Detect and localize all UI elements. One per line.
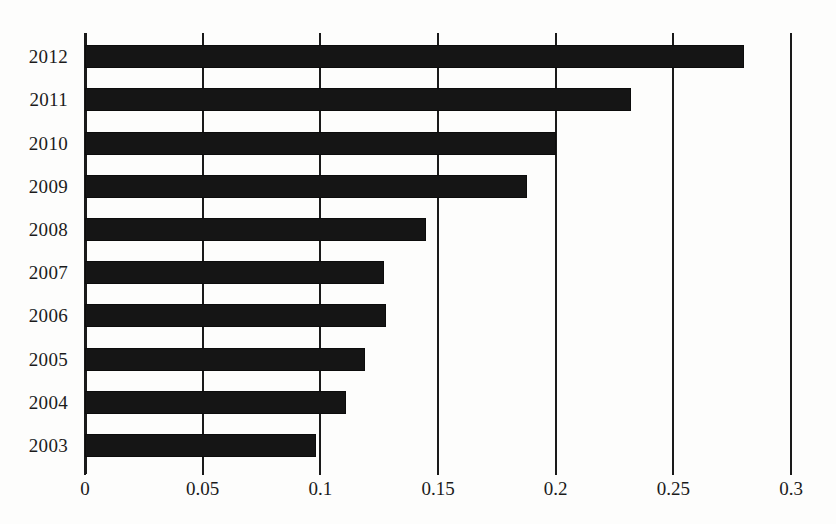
- y-axis-label-2007: 2007: [0, 261, 68, 284]
- y-axis-label-2010: 2010: [0, 132, 68, 155]
- bars-layer: [85, 33, 791, 465]
- x-tick-label-0.3: 0.3: [779, 477, 803, 501]
- bar-2006: [85, 304, 386, 327]
- x-tick-mark-0.05: [202, 465, 204, 475]
- x-tick-mark-0: [84, 465, 86, 475]
- bar-2005: [85, 348, 365, 371]
- x-tick-mark-0.3: [790, 465, 792, 475]
- x-tick-mark-0.1: [319, 465, 321, 475]
- bar-2012: [85, 45, 744, 68]
- x-tick-label-0.2: 0.2: [544, 477, 568, 501]
- y-axis-label-2008: 2008: [0, 218, 68, 241]
- y-axis-label-2005: 2005: [0, 348, 68, 371]
- x-tick-mark-0.2: [555, 465, 557, 475]
- x-tick-label-0.25: 0.25: [657, 477, 690, 501]
- x-tick-label-0.05: 0.05: [186, 477, 219, 501]
- y-axis-label-2009: 2009: [0, 175, 68, 198]
- bar-2008: [85, 218, 426, 241]
- y-axis-label-2004: 2004: [0, 391, 68, 414]
- y-axis-label-2011: 2011: [0, 88, 68, 111]
- bar-2011: [85, 88, 631, 111]
- y-axis-label-2003: 2003: [0, 434, 68, 457]
- x-axis-ticks: 00.050.10.150.20.250.3: [85, 465, 791, 477]
- bar-2007: [85, 261, 384, 284]
- bar-2009: [85, 175, 527, 198]
- x-tick-label-0.15: 0.15: [421, 477, 454, 501]
- bar-chart: 2012201120102009200820072006200520042003…: [0, 0, 836, 524]
- x-tick-mark-0.25: [672, 465, 674, 475]
- bar-2010: [85, 132, 556, 155]
- y-axis-labels: 2012201120102009200820072006200520042003: [0, 33, 78, 465]
- x-tick-label-0: 0: [80, 477, 90, 501]
- y-axis-label-2012: 2012: [0, 45, 68, 68]
- y-axis-label-2006: 2006: [0, 304, 68, 327]
- x-tick-label-0.1: 0.1: [308, 477, 332, 501]
- bar-2003: [85, 434, 316, 457]
- plot-area: [85, 33, 791, 465]
- x-tick-mark-0.15: [437, 465, 439, 475]
- bar-2004: [85, 391, 346, 414]
